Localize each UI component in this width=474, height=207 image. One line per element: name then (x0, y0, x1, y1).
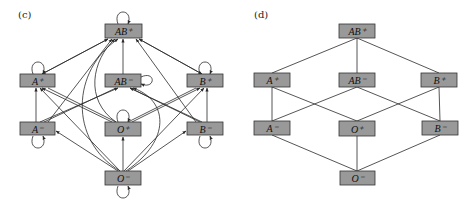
node-d-am: A⁻ (254, 121, 290, 135)
edge-bp-op-line (128, 88, 196, 122)
edge-bm-om (357, 135, 440, 171)
node-label: A⁺ (31, 76, 44, 87)
loop-am (32, 136, 44, 148)
node-label: AB⁻ (113, 76, 132, 87)
node-c-bm: B⁻ (187, 122, 223, 135)
node-label: O⁻ (117, 173, 130, 184)
edge-abp-bp (357, 38, 439, 73)
node-label: B⁻ (434, 123, 446, 134)
node-label: O⁻ (351, 173, 364, 184)
edge-am-om (272, 135, 357, 171)
node-d-abm: AB⁻ (339, 73, 375, 87)
node-d-abp: AB⁺ (339, 24, 375, 38)
panel-c-label: (c) (18, 9, 32, 20)
loop-ap (32, 62, 44, 74)
node-c-om: O⁻ (105, 171, 141, 185)
panel-d-label: (d) (254, 9, 268, 20)
loop-abm (141, 75, 152, 85)
edge-abm-bm-line (130, 88, 202, 122)
node-d-om: O⁻ (340, 171, 375, 185)
panel-d: (d) AB⁺ A⁺ AB⁻ (254, 9, 458, 185)
panel-c: (c) (18, 9, 223, 198)
node-d-bp: B⁺ (421, 73, 457, 87)
node-c-ap: A⁺ (20, 74, 55, 87)
node-c-bp: B⁺ (187, 74, 223, 87)
edge-am-abp (48, 39, 112, 122)
diagram-canvas: (c) (0, 0, 474, 207)
loop-bp (199, 62, 211, 74)
loop-abp (117, 12, 129, 24)
node-label: AB⁻ (347, 75, 366, 86)
node-d-ap: A⁺ (254, 73, 290, 87)
node-c-am: A⁻ (20, 122, 55, 135)
node-c-abp: AB⁺ (105, 24, 142, 38)
panel-c-edges (36, 39, 207, 171)
node-label: AB⁺ (114, 26, 133, 37)
node-label: O⁺ (351, 124, 364, 135)
edge-bp-bm (439, 87, 440, 121)
loop-op (117, 110, 129, 122)
panel-d-edges (272, 38, 440, 171)
node-label: B⁺ (199, 76, 211, 87)
node-d-op: O⁺ (339, 121, 375, 136)
edge-abp-ap (272, 38, 357, 73)
node-c-abm: AB⁻ (105, 74, 141, 87)
node-label: AB⁺ (347, 26, 366, 37)
node-label: B⁺ (433, 75, 445, 86)
loop-om (117, 186, 129, 198)
node-label: A⁻ (31, 124, 44, 135)
node-label: B⁻ (199, 124, 211, 135)
node-d-bm: B⁻ (422, 121, 458, 135)
node-label: O⁺ (117, 124, 130, 135)
node-c-op: O⁺ (105, 122, 141, 136)
node-label: A⁻ (265, 123, 278, 134)
node-label: A⁺ (265, 75, 278, 86)
loop-bm (199, 136, 211, 148)
